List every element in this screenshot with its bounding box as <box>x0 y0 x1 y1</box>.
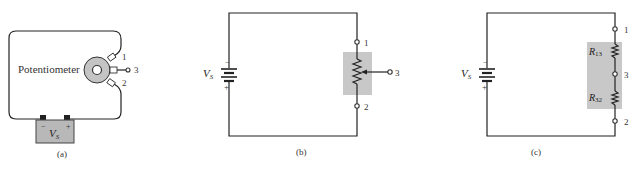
battery-minus-label: − <box>41 122 46 131</box>
terminal-3-label: 3 <box>134 65 139 75</box>
terminal-2 <box>613 119 617 123</box>
panel-b-wire <box>229 13 357 68</box>
terminal-2-label: 2 <box>624 117 629 127</box>
panel-b: − + VS 1 3 2 (b) <box>203 13 400 157</box>
terminal-1 <box>613 27 617 31</box>
battery-icon <box>221 69 237 81</box>
terminal-3 <box>388 70 392 74</box>
terminal-2-label: 2 <box>122 78 127 88</box>
terminal-2 <box>355 104 359 108</box>
battery-plus-label: + <box>66 122 71 131</box>
terminal-3-label: 3 <box>395 68 400 78</box>
battery-plus-label: + <box>224 82 229 92</box>
potentiometer-label: Potentiometer <box>18 63 80 75</box>
caption-b: (b) <box>296 147 307 157</box>
terminal-1-label: 1 <box>624 25 629 35</box>
panel-a-wire-return <box>70 84 121 119</box>
caption-c: (c) <box>531 147 541 157</box>
terminal-3-label: 3 <box>624 70 629 80</box>
panel-c: − + VS R13 R32 1 3 2 (c) <box>461 13 629 157</box>
panel-a: Potentiometer 1 3 2 − + VS (a) <box>9 31 139 159</box>
battery-icon <box>479 69 495 81</box>
caption-a: (a) <box>57 149 67 159</box>
terminal-3 <box>613 72 617 76</box>
circuit-figure: Potentiometer 1 3 2 − + VS (a) − + VS <box>0 0 640 169</box>
source-label: VS <box>203 67 214 81</box>
terminal-2-label: 2 <box>364 102 369 112</box>
battery-plus-label: + <box>482 82 487 92</box>
battery-minus-label: − <box>225 58 230 67</box>
source-label: VS <box>461 67 472 81</box>
terminal-1-label: 1 <box>122 52 127 62</box>
terminal-1 <box>355 40 359 44</box>
battery-minus-label: − <box>483 58 488 67</box>
terminal-1-label: 1 <box>364 38 369 48</box>
